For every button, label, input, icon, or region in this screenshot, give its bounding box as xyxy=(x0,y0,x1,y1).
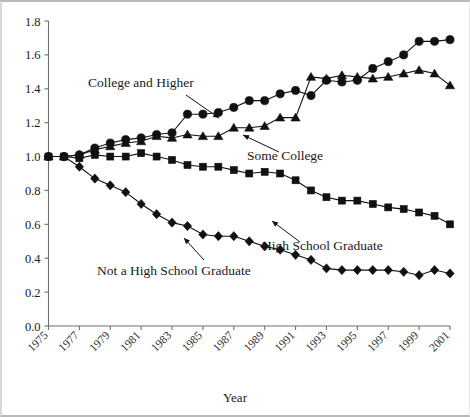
data-point-diamond xyxy=(446,269,454,278)
data-point-diamond xyxy=(106,181,114,190)
data-point-square xyxy=(230,167,237,174)
data-point-circle xyxy=(307,91,315,99)
y-axis: 0.00.20.40.60.81.01.21.41.61.8 xyxy=(25,15,49,334)
data-point-circle xyxy=(261,97,269,105)
data-point-square xyxy=(447,221,454,228)
annotation-college-and-higher: College and Higher xyxy=(88,75,194,90)
data-point-square xyxy=(385,204,392,211)
x-tick-label: 1983 xyxy=(149,329,174,354)
data-point-triangle xyxy=(337,71,346,79)
data-point-square xyxy=(153,153,160,160)
data-point-square xyxy=(400,206,407,213)
data-point-square xyxy=(369,201,376,208)
x-tick-label: 1999 xyxy=(396,329,421,354)
data-point-square xyxy=(338,197,345,204)
data-point-diamond xyxy=(369,265,377,274)
data-point-circle xyxy=(430,37,438,45)
data-point-square xyxy=(261,168,268,175)
x-axis-title: Year xyxy=(223,390,248,405)
data-point-circle xyxy=(369,64,377,72)
y-tick-label: 1.0 xyxy=(25,150,41,164)
data-point-square xyxy=(169,156,176,163)
data-point-diamond xyxy=(122,188,130,197)
data-point-circle xyxy=(415,37,423,45)
x-tick-label: 1977 xyxy=(56,329,81,354)
annotation-not-a-high-school-graduate: Not a High School Graduate xyxy=(97,263,251,278)
data-point-square xyxy=(308,187,315,194)
data-point-triangle xyxy=(306,73,315,81)
data-point-diamond xyxy=(338,265,346,274)
data-point-square xyxy=(76,155,83,162)
data-point-square xyxy=(138,150,145,157)
x-tick-label: 1979 xyxy=(87,329,112,354)
data-point-diamond xyxy=(91,174,99,183)
y-tick-label: 1.4 xyxy=(25,82,41,96)
data-point-square xyxy=(215,163,222,170)
data-point-circle xyxy=(446,36,454,44)
data-point-diamond xyxy=(384,265,392,274)
y-tick-label: 0.8 xyxy=(25,184,41,198)
data-point-triangle xyxy=(445,81,454,89)
x-tick-label: 1987 xyxy=(210,329,235,354)
data-point-diamond xyxy=(245,237,253,246)
data-point-diamond xyxy=(214,232,222,241)
data-point-circle xyxy=(384,58,392,66)
data-point-triangle xyxy=(260,122,269,130)
data-point-triangle xyxy=(415,66,424,74)
y-tick-label: 1.2 xyxy=(25,116,41,130)
data-point-diamond xyxy=(152,210,160,219)
data-point-circle xyxy=(291,86,299,94)
series-college-and-higher xyxy=(44,36,454,161)
data-point-square xyxy=(91,151,98,158)
x-tick-label: 1989 xyxy=(241,329,266,354)
x-tick-label: 1995 xyxy=(334,329,359,354)
data-point-circle xyxy=(338,78,346,86)
y-tick-label: 0.2 xyxy=(25,286,41,300)
data-point-diamond xyxy=(307,255,315,264)
data-point-circle xyxy=(199,110,207,118)
data-point-square xyxy=(416,209,423,216)
data-point-circle xyxy=(183,110,191,118)
x-axis: 1975197719791981198319851987198919911993… xyxy=(25,326,451,354)
data-point-diamond xyxy=(430,265,438,274)
data-point-circle xyxy=(245,97,253,105)
data-point-circle xyxy=(276,90,284,98)
data-point-circle xyxy=(230,103,238,111)
data-point-square xyxy=(246,170,253,177)
x-tick-label: 1981 xyxy=(118,329,143,354)
data-point-diamond xyxy=(322,264,330,273)
x-tick-label: 2001 xyxy=(427,329,452,354)
data-point-square xyxy=(184,162,191,169)
data-point-circle xyxy=(400,51,408,59)
data-point-diamond xyxy=(353,265,361,274)
data-point-square xyxy=(122,153,129,160)
data-point-diamond xyxy=(415,271,423,280)
leader-arrow-not-a-high-school-graduate xyxy=(184,238,204,260)
x-tick-label: 1993 xyxy=(303,329,328,354)
data-point-diamond xyxy=(230,232,238,241)
y-tick-label: 0.6 xyxy=(25,218,41,232)
annotation-high-school-graduate: High School Graduate xyxy=(262,238,383,253)
data-point-square xyxy=(277,170,284,177)
x-tick-label: 1991 xyxy=(272,329,297,354)
data-point-diamond xyxy=(199,230,207,239)
chart-container: 0.00.20.40.60.81.01.21.41.61.8 197519771… xyxy=(0,0,470,417)
data-point-triangle xyxy=(183,130,192,138)
y-tick-label: 1.8 xyxy=(25,15,41,29)
x-tick-label: 1997 xyxy=(365,329,390,354)
annotation-some-college: Some College xyxy=(247,148,323,163)
data-point-square xyxy=(107,153,114,160)
data-point-diamond xyxy=(399,267,407,276)
data-point-diamond xyxy=(183,221,191,230)
y-tick-label: 0.4 xyxy=(25,252,41,266)
x-tick-label: 1985 xyxy=(180,329,205,354)
data-point-square xyxy=(354,197,361,204)
data-point-diamond xyxy=(137,199,145,208)
line-chart: 0.00.20.40.60.81.01.21.41.61.8 197519771… xyxy=(0,0,470,417)
series-line xyxy=(49,153,451,224)
data-point-diamond xyxy=(75,162,83,171)
data-point-square xyxy=(323,194,330,201)
data-point-diamond xyxy=(168,218,176,227)
y-tick-label: 1.6 xyxy=(25,48,41,62)
data-point-square xyxy=(292,177,299,184)
